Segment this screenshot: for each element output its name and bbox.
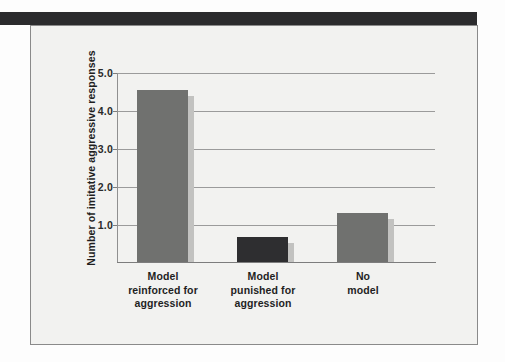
y-tick-label-2: 2.0: [79, 181, 113, 193]
x-category-label-2-line-0: No: [302, 270, 424, 284]
bar-2: [337, 213, 388, 262]
y-axis-line: [117, 73, 118, 263]
x-category-label-2-line-1: model: [302, 284, 424, 298]
bar-1: [237, 237, 288, 262]
x-axis-line: [117, 262, 436, 263]
page-header-bar: [0, 12, 477, 25]
gridline-5: [117, 73, 435, 74]
y-tick-label-4: 4.0: [79, 105, 113, 117]
y-tick-label-1: 1.0: [79, 219, 113, 231]
chart-screenshot: Number of imitative aggressive responses…: [0, 0, 505, 362]
x-category-label-2: No model: [302, 270, 424, 297]
bar-0: [137, 90, 188, 262]
x-category-label-1-line-2: aggression: [202, 297, 324, 311]
y-tick-label-3: 3.0: [79, 143, 113, 155]
y-tick-label-5: 5.0: [79, 67, 113, 79]
